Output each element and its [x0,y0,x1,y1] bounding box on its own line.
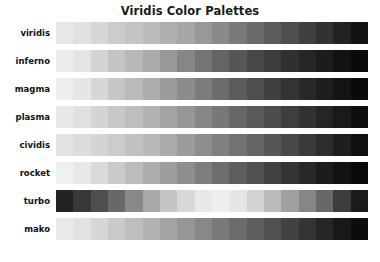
palette-label-magma: magma [0,78,50,100]
palette-swatch [351,134,368,156]
palette-swatch [160,134,177,156]
palette-swatch [56,218,73,240]
palette-swatch [125,190,142,212]
palette-row: rocket [0,162,380,190]
palette-swatch [247,22,264,44]
palette-swatch [316,134,333,156]
palette-swatch [73,162,90,184]
palette-strip-turbo [56,190,368,212]
palette-label-cividis: cividis [0,134,50,156]
palette-swatch [125,162,142,184]
palette-swatch [212,78,229,100]
palette-swatch [316,106,333,128]
palette-swatch [351,50,368,72]
palette-swatch [299,50,316,72]
palette-swatch [281,218,298,240]
palette-swatch [351,162,368,184]
palette-swatch [91,218,108,240]
palette-swatch [73,22,90,44]
palette-swatch [91,134,108,156]
palette-row: turbo [0,190,380,218]
palette-swatch [351,78,368,100]
palette-swatch [212,134,229,156]
palette-swatch [91,78,108,100]
palette-swatch [160,22,177,44]
palette-row: inferno [0,50,380,78]
palette-row: plasma [0,106,380,134]
palette-swatch [333,162,350,184]
palette-list: viridisinfernomagmaplasmacividisrockettu… [0,22,380,246]
palette-swatch [333,190,350,212]
palette-swatch [229,50,246,72]
palette-swatch [247,162,264,184]
palette-swatch [264,162,281,184]
palette-swatch [316,218,333,240]
palette-swatch [351,22,368,44]
palette-swatch [299,134,316,156]
palette-swatch [229,106,246,128]
palette-swatch [195,78,212,100]
palette-row: mako [0,218,380,246]
palette-strip-magma [56,78,368,100]
palette-swatch [247,50,264,72]
palette-swatch [351,106,368,128]
palette-swatch [299,106,316,128]
palette-swatch [177,190,194,212]
palette-swatch [229,78,246,100]
palette-strip-viridis [56,22,368,44]
palette-swatch [247,106,264,128]
palette-swatch [195,134,212,156]
palette-swatch [143,134,160,156]
palette-swatch [143,162,160,184]
palette-swatch [247,134,264,156]
palette-strip-inferno [56,50,368,72]
palette-swatch [212,218,229,240]
palette-swatch [56,22,73,44]
palette-swatch [316,78,333,100]
palette-swatch [316,50,333,72]
palette-swatch [247,190,264,212]
palette-label-rocket: rocket [0,162,50,184]
palette-swatch [212,50,229,72]
palette-swatch [333,106,350,128]
palette-swatch [281,22,298,44]
palette-swatch [108,78,125,100]
palette-swatch [177,78,194,100]
palette-swatch [177,134,194,156]
palette-swatch [73,78,90,100]
palette-swatch [73,106,90,128]
palette-swatch [333,22,350,44]
palette-swatch [177,106,194,128]
palette-swatch [247,78,264,100]
palette-swatch [160,218,177,240]
palette-swatch [108,162,125,184]
palette-label-viridis: viridis [0,22,50,44]
palette-swatch [108,106,125,128]
palette-swatch [125,106,142,128]
palette-swatch [177,22,194,44]
palette-swatch [125,134,142,156]
palette-swatch [56,134,73,156]
palette-swatch [229,190,246,212]
palette-swatch [160,162,177,184]
palette-swatch [56,78,73,100]
palette-swatch [195,50,212,72]
palette-swatch [212,190,229,212]
palette-swatch [212,106,229,128]
palette-swatch [73,190,90,212]
palette-swatch [195,218,212,240]
palette-swatch [91,190,108,212]
palette-strip-cividis [56,134,368,156]
palette-swatch [316,22,333,44]
palette-swatch [125,50,142,72]
palette-swatch [160,78,177,100]
palette-swatch [160,190,177,212]
palette-swatch [195,190,212,212]
palette-swatch [125,22,142,44]
palette-label-turbo: turbo [0,190,50,212]
palette-label-plasma: plasma [0,106,50,128]
palette-swatch [108,190,125,212]
palette-swatch [281,50,298,72]
palette-swatch [229,22,246,44]
palette-swatch [316,162,333,184]
